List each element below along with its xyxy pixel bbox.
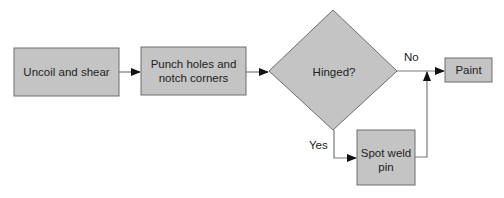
edge-hinged-to-paint: No: [397, 51, 444, 71]
edge-label-yes: Yes: [309, 139, 328, 151]
edge-hinged-to-spotweld: Yes: [309, 130, 356, 158]
node-spot-weld-pin: Spot weld pin: [357, 130, 415, 185]
node-punch-holes: Punch holes and notch corners: [141, 47, 246, 95]
edge-spotweld-to-paint: [415, 72, 427, 157]
node-label-line-1: Punch holes and: [151, 58, 237, 70]
edge-label-no: No: [404, 51, 419, 63]
node-label: Hinged?: [313, 66, 356, 78]
node-label-line-1: Spot weld: [361, 147, 412, 159]
node-uncoil-and-shear: Uncoil and shear: [14, 48, 119, 96]
flowchart: No Yes Uncoil and shear Punch holes and …: [0, 0, 504, 198]
node-label-line-2: notch corners: [159, 72, 229, 84]
node-label-line-2: pin: [378, 161, 393, 173]
node-hinged-decision: Hinged?: [269, 10, 397, 130]
node-label: Paint: [455, 64, 482, 76]
node-label: Uncoil and shear: [23, 66, 109, 78]
node-paint: Paint: [445, 58, 492, 82]
